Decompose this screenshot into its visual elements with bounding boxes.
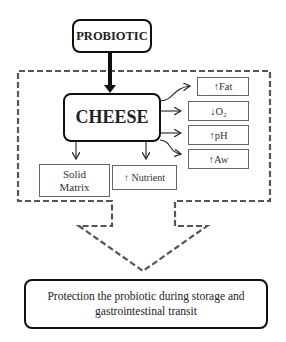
cheese-label: CHEESE	[75, 107, 148, 128]
solid-matrix-label-line1: Solid	[63, 168, 86, 181]
probiotic-to-cheese-arrowhead	[104, 85, 116, 93]
property-fat-label: ↑Fat	[214, 81, 233, 92]
probiotic-node: PROBIOTIC	[72, 19, 152, 53]
property-ph: ↑pH	[188, 125, 249, 145]
property-ph-label: ↑pH	[209, 130, 227, 141]
outcome-node: Protection the probiotic during storage …	[24, 279, 268, 329]
property-aw-label: ↑Aw	[209, 154, 228, 165]
probiotic-label: PROBIOTIC	[76, 29, 148, 44]
property-aw: ↑Aw	[188, 149, 249, 169]
solid-matrix-label-line2: Matrix	[60, 181, 90, 194]
property-o2-label: ↓O₂	[210, 106, 227, 117]
arrow-to-aw	[160, 140, 181, 154]
property-fat: ↑Fat	[197, 77, 249, 96]
outcome-label-line1: Protection the probiotic during storage …	[47, 289, 244, 304]
property-o2: ↓O₂	[188, 101, 249, 121]
arrow-to-fat	[160, 86, 190, 101]
cheese-node: CHEESE	[63, 93, 161, 142]
effect-nutrient: ↑ Nutrient	[112, 165, 177, 190]
effect-solid-matrix: Solid Matrix	[39, 164, 110, 197]
nutrient-label: ↑ Nutrient	[124, 172, 165, 183]
outcome-label-line2: gastrointestinal transit	[95, 304, 197, 319]
